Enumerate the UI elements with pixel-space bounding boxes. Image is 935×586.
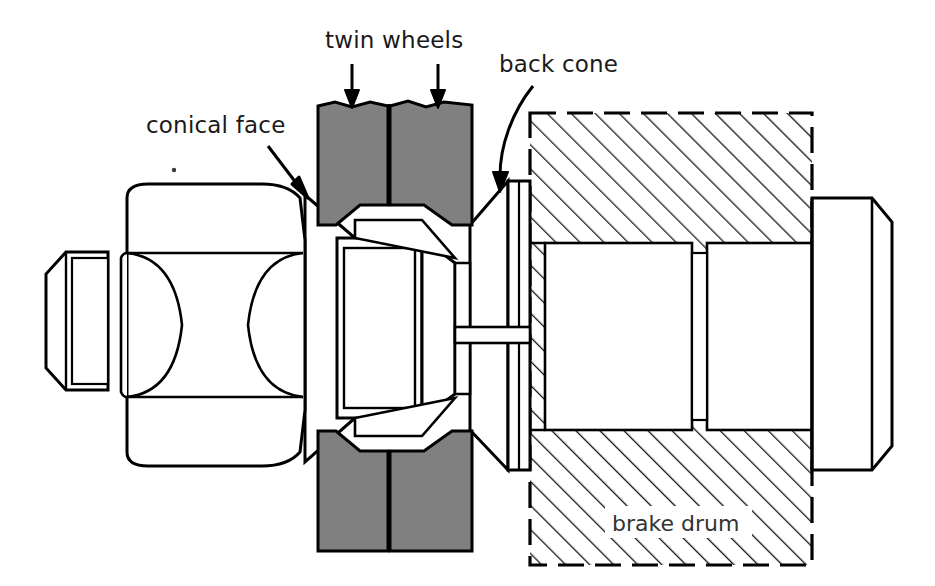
twin-wheel-upper-right bbox=[390, 101, 472, 225]
hex-nut-left-face bbox=[121, 253, 127, 397]
hex-nut-assembly bbox=[121, 184, 305, 466]
left-shaft-stub bbox=[46, 252, 108, 390]
back-cone-taper bbox=[470, 181, 508, 470]
diagram-canvas: conical face twin wheels back cone brake… bbox=[0, 0, 935, 586]
hub-bore-inner bbox=[344, 248, 415, 408]
hub-cone-wedge bbox=[422, 238, 455, 418]
label-brake-drum: brake drum bbox=[612, 511, 739, 536]
drum-cavity-left bbox=[545, 243, 692, 430]
drum-cavity-gap bbox=[692, 253, 707, 420]
right-shaft-stub bbox=[812, 198, 892, 470]
left-stub-inner bbox=[72, 258, 108, 384]
label-conical-face: conical face bbox=[146, 112, 286, 138]
print-speck-artifact bbox=[172, 168, 176, 172]
technical-drawing: conical face twin wheels back cone brake… bbox=[0, 0, 935, 586]
drum-cavity-right bbox=[707, 243, 812, 430]
label-twin-wheels: twin wheels bbox=[325, 27, 463, 53]
axle-centreline-band bbox=[455, 327, 530, 343]
back-cone-assembly bbox=[470, 181, 530, 470]
label-back-cone: back cone bbox=[499, 51, 618, 77]
brake-drum-assembly bbox=[530, 113, 812, 565]
hex-nut-outline bbox=[127, 184, 305, 466]
brake-drum-label-group: brake drum bbox=[605, 506, 752, 538]
